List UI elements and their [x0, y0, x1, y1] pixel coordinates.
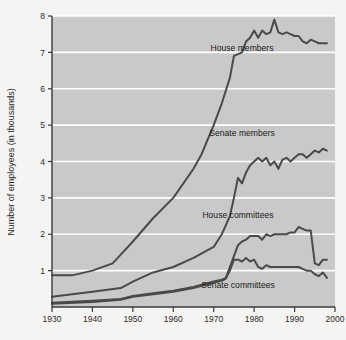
series-label-senate-committees: Senate committees [201, 280, 275, 290]
y-tick-label-1: 1 [40, 266, 45, 276]
y-tick-label-7: 7 [40, 48, 45, 58]
y-tick-label-2: 2 [40, 229, 45, 239]
series-label-house-members: House members [210, 43, 273, 53]
x-tick-label-1970: 1970 [204, 314, 223, 324]
chart-figure: 12345678 1930194019501960197019801990200… [0, 0, 346, 340]
x-tick-label-1930: 1930 [43, 314, 62, 324]
y-axis-title: Number of employees (in thousands) [6, 88, 16, 236]
y-tick-label-4: 4 [40, 157, 45, 167]
y-tick-label-8: 8 [40, 11, 45, 21]
x-tick-label-1980: 1980 [245, 314, 264, 324]
y-tick-label-3: 3 [40, 193, 45, 203]
line-chart: 12345678 1930194019501960197019801990200… [0, 0, 346, 340]
x-tick-label-1960: 1960 [164, 314, 183, 324]
x-tick-label-1950: 1950 [123, 314, 142, 324]
y-tick-label-5: 5 [40, 120, 45, 130]
x-tick-label-1990: 1990 [285, 314, 304, 324]
series-label-house-committees: House committees [202, 210, 273, 220]
x-tick-label-1940: 1940 [83, 314, 102, 324]
y-tick-label-6: 6 [40, 84, 45, 94]
x-tick-label-2000: 2000 [326, 314, 345, 324]
series-label-senate-members: Senate members [209, 128, 274, 138]
